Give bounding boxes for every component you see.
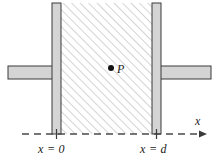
point-p-label: P — [117, 62, 125, 77]
diagram-canvas — [0, 0, 218, 167]
physics-diagram-figure: P x = 0 x = d x — [0, 0, 218, 167]
left-plate — [52, 3, 61, 134]
point-p-marker — [108, 65, 114, 71]
hatched-slab-region — [61, 3, 152, 134]
x-axis-label: x — [195, 114, 201, 129]
right-plate — [152, 3, 161, 134]
x-zero-label: x = 0 — [38, 142, 65, 157]
left-horizontal-arm — [8, 66, 57, 79]
x-axis-arrowhead — [199, 131, 207, 138]
right-horizontal-arm — [157, 66, 211, 79]
x-d-label: x = d — [140, 142, 167, 157]
